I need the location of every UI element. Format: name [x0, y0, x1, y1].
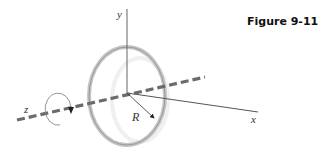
z-axis-label: z [24, 103, 28, 115]
x-axis-label: x [251, 113, 256, 125]
diagram-canvas [0, 0, 319, 150]
x-axis [127, 93, 258, 112]
rotation-arrowhead-icon [68, 107, 74, 114]
y-axis-label: y [117, 8, 122, 20]
radius-label: R [132, 110, 139, 125]
